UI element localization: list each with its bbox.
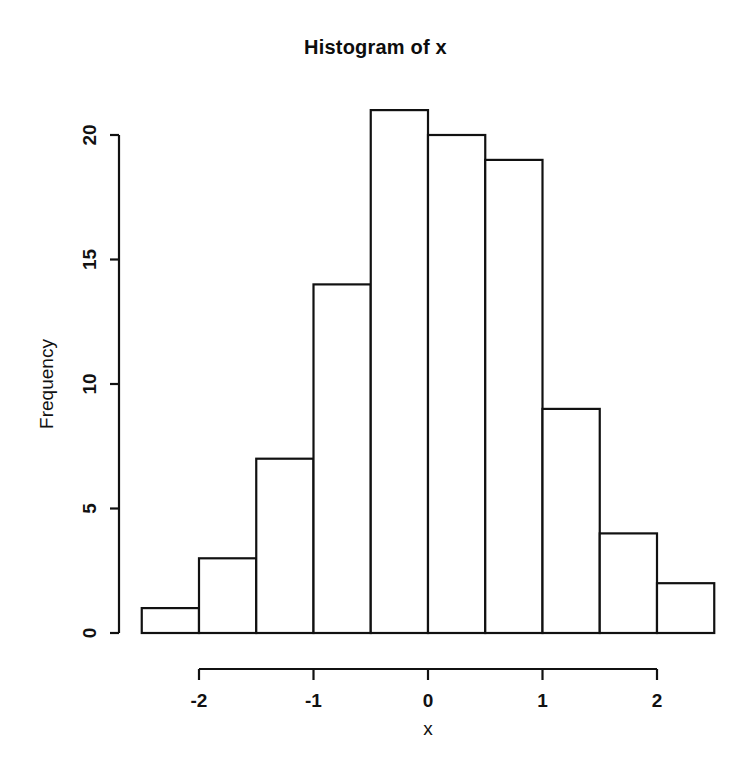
x-axis-title: x [423,718,433,739]
x-tick-label: -1 [305,690,322,711]
y-axis-title: Frequency [36,339,57,429]
x-tick-label: 0 [423,690,434,711]
histogram-bar [485,160,542,633]
histogram-bar [371,110,428,633]
histogram-bar [657,583,714,633]
x-axis-ticks: -2-1012 [191,669,663,711]
histogram-bar [314,284,371,633]
histogram-bar [428,135,485,633]
histogram-bar [142,608,199,633]
histogram-bar [199,558,256,633]
y-tick-label: 20 [79,124,100,145]
y-tick-label: 15 [79,249,100,271]
x-tick-label: 2 [652,690,663,711]
y-tick-label: 10 [79,373,100,394]
y-axis-ticks: 05101520 [79,124,120,638]
x-tick-label: 1 [537,690,548,711]
y-tick-label: 0 [79,628,100,639]
histogram-plot-area: Histogram of x 05101520 -2-1012 Frequenc… [0,0,751,780]
histogram-bar [600,533,657,633]
histogram-bar [543,409,600,633]
histogram-chart-svg: 05101520 -2-1012 Frequency x [0,0,751,780]
histogram-bar [256,459,313,633]
x-tick-label: -2 [191,690,208,711]
y-tick-label: 5 [79,503,100,514]
histogram-bars [142,110,715,633]
